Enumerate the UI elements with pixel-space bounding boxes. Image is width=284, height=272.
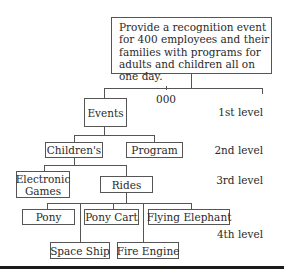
connector-rides-down — [126, 193, 127, 203]
node-rides: Rides — [100, 176, 153, 193]
node-program-label: Program — [131, 144, 177, 156]
node-rides-label: Rides — [112, 179, 142, 191]
node-events: Events — [84, 98, 127, 127]
connector-goal-down — [191, 74, 192, 88]
node-pony: Pony — [22, 209, 75, 225]
node-childrens: Children's — [45, 142, 103, 158]
connector-level3-bar — [44, 165, 127, 166]
connector-level2-bar — [74, 135, 155, 136]
connector-to-program — [154, 135, 155, 142]
node-electronic-games-line2: Games — [25, 185, 61, 197]
connector-to-childrens — [74, 135, 75, 142]
node-program: Program — [126, 142, 183, 158]
goal-text: Provide a recognition event for 400 empl… — [119, 21, 271, 82]
connector-to-events — [104, 88, 105, 98]
node-space-ship: Space Ship — [50, 242, 110, 259]
node-space-ship-label: Space Ship — [50, 245, 110, 257]
connector-level4-bar — [47, 203, 192, 204]
node-electronic-games-line1: Electronic — [16, 173, 71, 185]
level-2-label: 2nd level — [214, 144, 263, 156]
node-pony-cart: Pony Cart — [84, 209, 139, 225]
wbs-diagram: Provide a recognition event for 400 empl… — [0, 0, 284, 272]
level-4-label: 4th level — [217, 228, 263, 240]
node-fire-engine: Fire Engine — [117, 242, 179, 259]
node-electronic-games: Electronic Games — [16, 171, 70, 198]
level-3-label: 3rd level — [216, 174, 263, 186]
node-flying-elephant: Flying Elephant — [148, 209, 230, 225]
connector-to-rides — [126, 165, 127, 176]
connector-tick-000 — [166, 86, 167, 90]
goal-box: Provide a recognition event for 400 empl… — [111, 17, 272, 74]
node-fire-engine-label: Fire Engine — [117, 245, 180, 257]
node-pony-cart-label: Pony Cart — [85, 211, 138, 223]
node-pony-label: Pony — [36, 211, 62, 223]
node-childrens-label: Children's — [47, 144, 102, 156]
connector-tick-right — [262, 88, 263, 94]
connector-childrens-down — [74, 158, 75, 165]
node-flying-elephant-label: Flying Elephant — [147, 211, 232, 223]
bottom-rule — [0, 266, 284, 269]
node-events-label: Events — [87, 107, 123, 119]
level-1-label: 1st level — [218, 106, 263, 118]
connector-to-space-ship — [80, 203, 81, 242]
connector-level1-bar — [104, 88, 263, 89]
connector-events-down — [104, 127, 105, 135]
connector-to-fire-engine — [143, 203, 144, 242]
root-code-label: 000 — [156, 93, 176, 105]
